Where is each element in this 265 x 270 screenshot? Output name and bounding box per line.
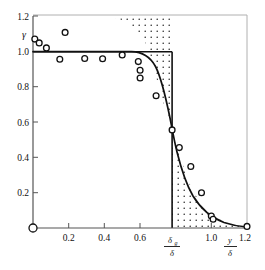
data-point	[169, 127, 175, 133]
data-point-origin	[29, 224, 37, 232]
fraction-numerator: y	[227, 235, 232, 245]
data-point	[153, 93, 159, 99]
y-tick-label: 1.2	[17, 12, 29, 22]
x-tick-label: 0.2	[63, 233, 75, 243]
y-tick-label: 1.0	[17, 47, 29, 57]
x-tick-label: 0.4	[98, 233, 110, 243]
intermittency-chart: 1.2 1.0 0.8 0.6 0.4 0.2 γ 0.2 0.4 0.6 1.…	[0, 0, 265, 270]
data-point	[244, 224, 250, 230]
data-point	[62, 30, 68, 36]
fraction-numerator: δ	[168, 235, 173, 245]
data-point	[100, 56, 106, 62]
x-tick-label: 1.2	[239, 233, 251, 243]
data-points	[29, 30, 250, 233]
data-point	[188, 164, 194, 170]
data-point	[135, 59, 141, 65]
fraction-denominator: δ	[228, 248, 233, 258]
x-tick-label: 0.6	[134, 233, 146, 243]
delta-g-over-delta-tick-label: δ g δ	[164, 235, 180, 258]
data-point	[210, 216, 216, 222]
y-axis	[33, 16, 38, 228]
x-tick-labels: 0.2 0.4 0.6 1.0 1.2	[63, 233, 251, 243]
y-tick-label: 0.8	[17, 82, 29, 92]
upper-stippled-region	[33, 17, 172, 124]
data-point	[176, 145, 182, 151]
y-axis-label: γ	[22, 29, 27, 40]
data-point	[57, 56, 63, 62]
data-point	[44, 45, 50, 51]
chart-canvas: 1.2 1.0 0.8 0.6 0.4 0.2 γ 0.2 0.4 0.6 1.…	[0, 0, 265, 270]
x-axis-label: y δ	[224, 235, 237, 258]
plot-frame	[33, 15, 247, 228]
y-tick-label: 0.4	[17, 153, 29, 163]
fraction-denominator: δ	[170, 248, 175, 258]
data-point	[137, 67, 143, 73]
data-point	[199, 190, 205, 196]
data-point	[137, 75, 143, 81]
data-point	[119, 52, 125, 58]
x-tick-label: 1.0	[205, 233, 217, 243]
data-point	[82, 56, 88, 62]
data-point	[36, 40, 42, 46]
fraction-numerator-subscript: g	[175, 240, 178, 246]
y-tick-label: 0.2	[17, 188, 29, 198]
y-tick-label: 0.6	[17, 118, 29, 128]
